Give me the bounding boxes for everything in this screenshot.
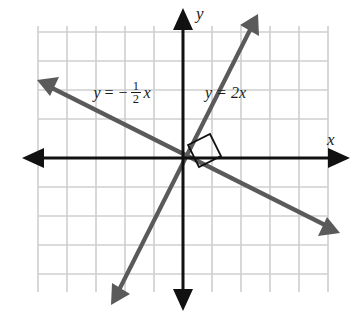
- axes: [22, 8, 350, 311]
- arrowhead-negative-half-x-upper-left: [37, 77, 59, 96]
- equation-label-negative-half-x: y = − 1 2 x: [92, 80, 152, 107]
- fraction-numerator: 1: [131, 80, 141, 93]
- coordinate-plane-figure: y x y = − 1 2 x y = 2x: [0, 0, 358, 317]
- equation-equals-sign: =: [104, 85, 115, 101]
- arrowhead-x-axis-left: [22, 148, 44, 168]
- equation-variable: x: [143, 85, 150, 101]
- equation-label-y-equals-2x: y = 2x: [205, 85, 246, 101]
- equation-minus-sign: −: [117, 85, 128, 101]
- fraction-one-half: 1 2: [131, 80, 141, 107]
- arrowhead-y-axis-bottom: [173, 289, 193, 311]
- graph-canvas: [0, 0, 358, 317]
- x-axis-label: x: [327, 131, 335, 148]
- y-axis-label: y: [196, 5, 204, 22]
- equation-lhs: y: [94, 85, 101, 101]
- arrowhead-y-axis-top: [173, 8, 193, 30]
- arrowhead-x-axis-right: [328, 148, 350, 168]
- arrowhead-negative-half-x-lower-right: [318, 217, 340, 236]
- fraction-denominator: 2: [131, 92, 141, 106]
